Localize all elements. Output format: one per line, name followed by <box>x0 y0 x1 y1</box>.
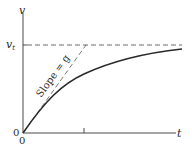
slope-annotation: Slope = g <box>34 52 72 99</box>
x-axis-label: t <box>177 127 182 140</box>
y-axis-label: v <box>19 4 26 17</box>
velocity-time-chart: v t vt 0 0 Slope = g <box>0 0 192 146</box>
origin-label-x: 0 <box>19 135 25 146</box>
vt-label: vt <box>6 38 15 52</box>
